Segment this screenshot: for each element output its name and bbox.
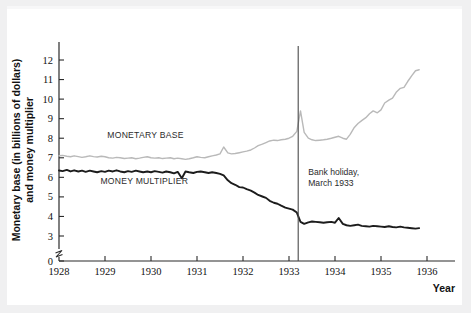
x-tick-label: 1929 [95,266,116,277]
x-tick-label: 1930 [141,266,162,277]
y-tick-label: 10 [43,94,54,105]
y-tick-label: 0 [48,256,53,267]
y-tick-label: 11 [43,74,53,85]
annotation-label-line2: March 1933 [308,178,354,188]
y-tick-label: 12 [43,55,54,66]
y-tick-label: 6 [48,172,53,183]
x-tick-label: 1928 [49,266,70,277]
y-tick-label: 7 [48,152,53,163]
x-axis-tick-labels: 192819291930193119321933193419351936 [49,266,438,277]
x-tick-label: 1931 [187,266,208,277]
y-tick-label: 4 [48,211,54,222]
y-tick-label: 8 [48,133,53,144]
x-axis-title: Year [433,282,455,294]
data-series-group [59,70,419,229]
y-tick-label: 9 [48,113,53,124]
chart-canvas: 03456789101112 1928192919301931193219331… [0,0,471,313]
y-tick-label: 3 [48,231,53,242]
y-axis-title-line1: Monetary base (in billions of dollars) [10,59,22,242]
series-label: MONETARY BASE [107,130,183,140]
y-axis-title-line2: and money multiplier [23,97,35,203]
y-tick-label: 5 [48,191,53,202]
annotation-label-line1: Bank holiday, [308,167,359,177]
figure-page: 03456789101112 1928192919301931193219331… [0,0,471,313]
series-label: MONEY MULTIPLIER [100,176,188,186]
x-tick-label: 1936 [417,266,438,277]
y-axis-break-icon [56,251,63,258]
x-tick-label: 1932 [233,266,254,277]
y-axis-ticks [59,60,64,261]
annotation-text-group: Bank holiday,March 1933 [308,167,359,188]
series-line [59,70,419,160]
x-tick-label: 1934 [325,266,347,277]
x-tick-label: 1933 [279,266,300,277]
y-axis-title-group: Monetary base (in billions of dollars) a… [10,59,35,242]
x-tick-label: 1935 [371,266,392,277]
x-axis-ticks [105,256,427,261]
line-chart: 03456789101112 1928192919301931193219331… [0,0,471,313]
y-axis-tick-labels: 03456789101112 [43,55,54,267]
